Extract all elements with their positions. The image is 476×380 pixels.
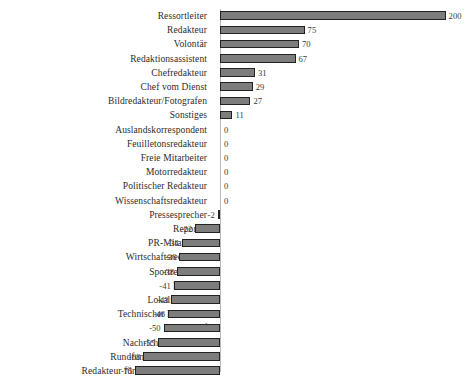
bar-row: Nachrichtenredakteur-55	[0, 336, 476, 350]
bar-row: Ressortleiter200	[0, 9, 476, 23]
bar	[220, 68, 255, 77]
plot-area: Ressortleiter200Redakteur75Volontär70Red…	[0, 0, 476, 380]
bar	[164, 324, 220, 333]
bar-row: Auslandskorrespondent0	[0, 123, 476, 137]
bar-row: Lokalchef-50	[0, 321, 476, 335]
value-label: 67	[299, 52, 308, 66]
category-label: Wissenschaftsredakteur	[0, 194, 207, 208]
value-label: 29	[256, 80, 265, 94]
bar	[158, 338, 220, 347]
bar	[220, 82, 253, 91]
value-label: -55	[144, 336, 155, 350]
category-label: Auslandskorrespondent	[0, 123, 207, 137]
category-label: Pressesprecher	[0, 208, 207, 222]
category-label: Feuilletonsredakteur	[0, 137, 207, 151]
value-label: -36	[165, 250, 176, 264]
category-label: Sonstiges	[0, 108, 207, 122]
bar-row: Chefredakteur31	[0, 66, 476, 80]
category-label: Ressortleiter	[0, 9, 207, 23]
bar-row: Feuilletonsredakteur0	[0, 137, 476, 151]
category-label: Politischer Redakteur	[0, 179, 207, 193]
bar	[218, 210, 220, 219]
category-label: Bildredakteur/Fotografen	[0, 94, 207, 108]
bar-row: Lokalredakteur-43	[0, 293, 476, 307]
value-label: -68	[129, 350, 140, 364]
category-label: Reporter	[0, 222, 207, 236]
bar	[174, 281, 220, 290]
bar	[182, 239, 220, 248]
bar	[177, 267, 220, 276]
bar-row: Reporter-22	[0, 222, 476, 236]
bar-row: Redakteur für PR-Publikationen-75	[0, 364, 476, 378]
category-label: Chef vom Dienst	[0, 80, 207, 94]
bar	[220, 26, 305, 35]
value-label: -43	[157, 293, 168, 307]
bar-chart: Ressortleiter200Redakteur75Volontär70Red…	[0, 0, 476, 380]
bar-row: Bildredakteur/Fotografen27	[0, 94, 476, 108]
category-label: Motorredakteur	[0, 165, 207, 179]
bar-row: Sportredakteur-38	[0, 265, 476, 279]
bar	[195, 224, 220, 233]
bar-row: Politischer Redakteur0	[0, 179, 476, 193]
value-label: 27	[253, 94, 262, 108]
value-label: -34	[167, 236, 178, 250]
value-label: 200	[449, 9, 462, 23]
bar	[220, 40, 299, 49]
bar	[220, 97, 250, 106]
category-label: Volontär	[0, 37, 207, 51]
bar-row: Redaktionsassistent67	[0, 52, 476, 66]
value-label: 70	[302, 37, 311, 51]
bar-row: Motorredakteur0	[0, 165, 476, 179]
bar	[220, 111, 232, 120]
bar-row: Wirtschaftsredakteur-36	[0, 250, 476, 264]
value-label: 0	[224, 194, 228, 208]
value-label: -38	[163, 265, 174, 279]
category-label: Freie Mitarbeiter	[0, 151, 207, 165]
value-label: -50	[149, 321, 160, 335]
bar	[168, 310, 220, 319]
bar-row: Rundfunk/TV-Redakteur-68	[0, 350, 476, 364]
category-label: Chefredakteur	[0, 66, 207, 80]
category-label: Sportredakteur	[0, 265, 207, 279]
bar	[179, 253, 220, 262]
value-label: 0	[224, 165, 228, 179]
value-label: 0	[224, 123, 228, 137]
bar-row: PR-Chef-41	[0, 279, 476, 293]
bar-row: PR-Mitarbeiter-34	[0, 236, 476, 250]
bar	[135, 366, 220, 375]
value-label: -75	[121, 364, 132, 378]
value-label: 0	[224, 179, 228, 193]
bar-row: Wissenschaftsredakteur0	[0, 194, 476, 208]
bar-row: Technischer Redakteur-46	[0, 307, 476, 321]
value-label: 31	[258, 66, 267, 80]
value-label: 75	[308, 23, 317, 37]
bar-row: Chef vom Dienst29	[0, 80, 476, 94]
bar-row: Freie Mitarbeiter0	[0, 151, 476, 165]
bar-row: Pressesprecher-2	[0, 208, 476, 222]
value-label: -46	[154, 307, 165, 321]
value-label: 11	[235, 108, 243, 122]
bar-row: Volontär70	[0, 37, 476, 51]
value-label: -41	[159, 279, 170, 293]
value-label: 0	[224, 151, 228, 165]
category-label: Redaktionsassistent	[0, 52, 207, 66]
value-label: 0	[224, 137, 228, 151]
bar	[220, 54, 296, 63]
category-label: Redakteur	[0, 23, 207, 37]
bar	[220, 11, 446, 20]
bar-row: Sonstiges11	[0, 108, 476, 122]
value-label: -2	[208, 208, 215, 222]
bar-row: Redakteur75	[0, 23, 476, 37]
bar	[171, 295, 220, 304]
bar	[143, 352, 220, 361]
value-label: -22	[181, 222, 192, 236]
